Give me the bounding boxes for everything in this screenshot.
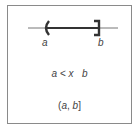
label-a: a bbox=[42, 37, 48, 48]
interval-notation: (a, b] bbox=[8, 100, 131, 111]
label-b: b bbox=[98, 37, 104, 48]
number-line bbox=[8, 6, 133, 46]
interval-card: a b a < x b (a, b] bbox=[7, 5, 132, 124]
inequality-expression: a < x b bbox=[8, 68, 131, 79]
